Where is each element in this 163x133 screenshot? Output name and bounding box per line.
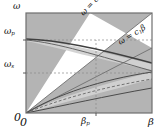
- dispersion-diagram-figure: ω ωp ωs 0 0 βp β ω = c0β ω = c1β: [0, 0, 163, 133]
- y-tick-omega-p-sub: p: [11, 30, 15, 36]
- y-tick-label-omega-p: ωp: [4, 27, 15, 37]
- x-tick-beta-p-sub: p: [86, 120, 90, 126]
- x-tick-label-beta-p: βp: [81, 117, 90, 127]
- x-axis-label: β: [148, 117, 154, 127]
- y-tick-label-omega-s: ωs: [4, 60, 14, 70]
- origin-label-x: 0: [20, 117, 27, 128]
- plot-canvas: [0, 0, 163, 133]
- y-tick-omega-s-sub: s: [11, 63, 14, 69]
- y-axis-label: ω: [13, 2, 20, 11]
